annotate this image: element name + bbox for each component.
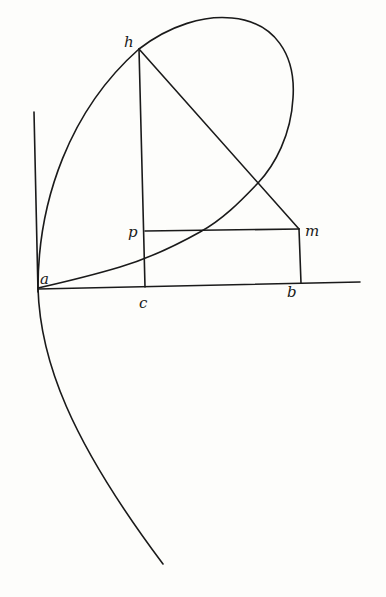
label-m: m bbox=[305, 222, 319, 240]
geometric-diagram: a h p m b c bbox=[0, 0, 386, 597]
label-h: h bbox=[124, 33, 134, 51]
label-p: p bbox=[128, 223, 138, 241]
label-c: c bbox=[139, 294, 148, 312]
label-b: b bbox=[287, 283, 297, 301]
loop-curve bbox=[38, 17, 293, 288]
line-mb bbox=[299, 229, 301, 283]
line-hm bbox=[139, 49, 299, 229]
lower-branch-curve bbox=[38, 288, 163, 564]
vertical-axis bbox=[34, 112, 38, 292]
line-pm bbox=[145, 229, 299, 231]
label-a: a bbox=[40, 270, 49, 288]
horizontal-axis bbox=[38, 282, 360, 289]
line-hc bbox=[139, 49, 145, 287]
